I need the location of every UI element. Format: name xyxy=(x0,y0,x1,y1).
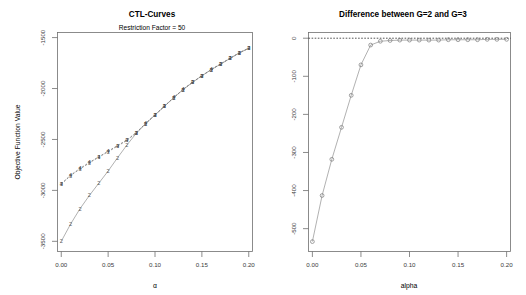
left-data-marker: 4 xyxy=(97,154,100,160)
left-y-tick-label: -3000 xyxy=(39,182,46,198)
left-data-marker: 4 xyxy=(135,130,138,136)
left-y-tick-label: -2000 xyxy=(39,80,46,96)
right-chart-title: Difference between G=2 and G=3 xyxy=(339,10,467,19)
left-data-marker: 2 xyxy=(97,180,100,186)
right-x-axis: 0.000.050.100.150.20 xyxy=(306,252,513,269)
right-y-tick-label: -400 xyxy=(290,184,297,197)
chart-panel-left: CTL-Curves Restriction Factor = 50 -1500… xyxy=(0,0,263,295)
right-x-tick-label: 0.20 xyxy=(501,261,514,268)
right-x-axis-label: alpha xyxy=(401,282,418,290)
left-data-marker: 4 xyxy=(107,148,110,154)
right-x-tick-label: 0.10 xyxy=(403,261,416,268)
left-data-layer: 2222222222222222222223333333333333333333… xyxy=(60,45,251,244)
left-y-tick-label: -2500 xyxy=(39,131,46,147)
right-data-layer xyxy=(310,37,508,243)
left-data-marker: 4 xyxy=(191,79,194,85)
right-x-tick-label: 0.00 xyxy=(306,261,319,268)
left-x-tick-label: 0.10 xyxy=(149,261,162,268)
right-x-tick-label: 0.05 xyxy=(355,261,368,268)
right-y-tick-label: -300 xyxy=(290,146,297,159)
left-x-axis-label: α xyxy=(153,282,157,289)
left-x-axis: 0.000.050.100.150.20 xyxy=(55,252,255,269)
left-data-marker: 4 xyxy=(60,181,63,187)
left-y-tick-label: -1500 xyxy=(39,29,46,45)
left-x-tick-label: 0.20 xyxy=(243,261,256,268)
left-data-marker: 4 xyxy=(247,45,250,51)
left-series-line xyxy=(61,48,249,241)
left-data-marker: 4 xyxy=(116,143,119,149)
left-data-marker: 4 xyxy=(228,55,231,61)
left-data-marker: 4 xyxy=(172,94,175,100)
left-y-axis-label: Objective Function Value xyxy=(14,104,22,179)
left-plot-frame xyxy=(58,33,253,252)
chart-panel-right: Difference between G=2 and G=3 0-100-200… xyxy=(263,0,526,295)
right-y-tick-label: -100 xyxy=(290,70,297,83)
left-data-marker: 2 xyxy=(107,168,110,174)
left-data-marker: 2 xyxy=(69,221,72,227)
figure-root: CTL-Curves Restriction Factor = 50 -1500… xyxy=(0,0,526,295)
right-y-tick-label: 0 xyxy=(290,36,297,40)
right-y-tick-label: -200 xyxy=(290,108,297,121)
left-data-marker: 4 xyxy=(238,50,241,56)
right-x-tick-label: 0.15 xyxy=(452,261,465,268)
left-x-tick-label: 0.05 xyxy=(102,261,115,268)
left-data-marker: 4 xyxy=(78,165,81,171)
right-plot-frame xyxy=(309,33,511,252)
left-data-marker: 4 xyxy=(182,86,185,92)
left-data-marker: 4 xyxy=(219,61,222,67)
left-data-marker: 2 xyxy=(78,206,81,212)
left-data-marker: 4 xyxy=(88,159,91,165)
left-data-marker: 4 xyxy=(69,172,72,178)
left-data-marker: 4 xyxy=(163,103,166,109)
left-x-tick-label: 0.15 xyxy=(196,261,209,268)
left-chart-subtitle: Restriction Factor = 50 xyxy=(119,24,186,31)
left-data-marker: 2 xyxy=(88,192,91,198)
right-y-tick-label: -500 xyxy=(290,222,297,235)
right-series-line xyxy=(312,39,506,241)
left-data-marker: 4 xyxy=(210,66,213,72)
left-y-tick-label: -3500 xyxy=(39,233,46,249)
left-data-marker: 4 xyxy=(144,120,147,126)
left-data-marker: 4 xyxy=(125,137,128,143)
left-data-marker: 4 xyxy=(153,112,156,118)
left-chart-title: CTL-Curves xyxy=(129,10,176,19)
left-y-axis: -1500-2000-2500-3000-3500 xyxy=(39,29,58,249)
right-y-axis: 0-100-200-300-400-500 xyxy=(290,36,309,235)
left-data-marker: 2 xyxy=(116,155,119,161)
left-data-marker: 2 xyxy=(60,238,63,244)
left-x-tick-label: 0.00 xyxy=(55,261,68,268)
left-data-marker: 4 xyxy=(200,73,203,79)
